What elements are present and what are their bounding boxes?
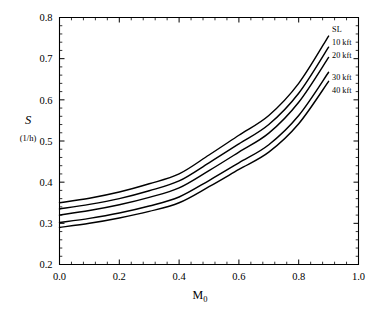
y-tick-label: 0.5	[39, 136, 52, 147]
x-axis-major-ticks	[60, 260, 359, 265]
y-axis-right-major-ticks	[354, 18, 359, 265]
data-curves	[60, 36, 329, 227]
x-tick-label: 1.0	[352, 271, 365, 282]
x-axis-tick-labels: 0.00.20.40.60.81.0	[53, 271, 365, 282]
y-axis-title: S	[25, 113, 32, 127]
chart-figure: 0.00.20.40.60.81.0 0.20.30.40.50.60.70.8…	[0, 0, 382, 319]
data-curve-30-kft	[60, 72, 329, 222]
x-tick-label: 0.6	[232, 271, 245, 282]
y-tick-label: 0.4	[39, 177, 53, 188]
y-axis-unit-label: (1/h)	[20, 133, 37, 143]
data-curve-sl	[60, 36, 329, 203]
chart-svg: 0.00.20.40.60.81.0 0.20.30.40.50.60.70.8…	[0, 0, 382, 319]
series-label-40-kft: 40 kft	[332, 86, 352, 95]
series-label-20-kft: 20 kft	[332, 51, 352, 60]
y-tick-label: 0.7	[39, 53, 52, 64]
x-axis-title: M0	[193, 288, 208, 304]
y-tick-label: 0.6	[39, 95, 52, 106]
x-axis-top-major-ticks	[60, 18, 359, 23]
axes-frame	[60, 18, 359, 265]
y-axis-tick-labels: 0.20.30.40.50.60.70.8	[39, 12, 53, 270]
series-label-sl: SL	[332, 25, 342, 34]
data-curve-20-kft	[60, 57, 329, 215]
x-tick-label: 0.4	[173, 271, 187, 282]
series-label-30-kft: 30 kft	[332, 73, 352, 82]
y-tick-label: 0.2	[39, 259, 52, 270]
y-tick-label: 0.8	[39, 12, 52, 23]
x-tick-label: 0.2	[113, 271, 126, 282]
series-label-10-kft: 10 kft	[332, 38, 352, 47]
data-curve-40-kft	[60, 81, 329, 227]
x-axis-title-main: M	[193, 288, 204, 302]
x-axis-title-subscript: 0	[203, 294, 207, 304]
x-tick-label: 0.8	[292, 271, 305, 282]
series-end-labels: SL10 kft20 kft30 kft40 kft	[332, 25, 352, 95]
x-tick-label: 0.0	[53, 271, 66, 282]
y-tick-label: 0.3	[39, 218, 52, 229]
